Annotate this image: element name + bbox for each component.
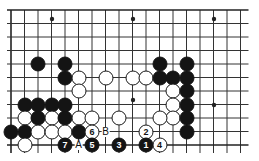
move-stone-white-4: 4 xyxy=(152,138,167,153)
stone-white xyxy=(112,111,127,126)
point-label-a: A xyxy=(74,140,83,150)
stone-white xyxy=(71,84,86,99)
stone-black xyxy=(179,124,194,139)
star-point xyxy=(50,17,54,21)
star-point xyxy=(131,98,135,102)
stone-move-number: 7 xyxy=(62,141,67,150)
star-point xyxy=(212,103,216,107)
stone-move-number: 1 xyxy=(143,141,148,150)
point-label-b: B xyxy=(101,127,110,137)
go-board-diagram: 6275314 AB xyxy=(0,0,259,161)
stone-move-number: 2 xyxy=(143,127,148,136)
stone-white xyxy=(152,111,167,126)
stone-black xyxy=(31,57,46,72)
move-stone-black-7: 7 xyxy=(58,138,73,153)
stone-move-number: 4 xyxy=(157,141,162,150)
stone-white xyxy=(17,138,32,153)
star-point xyxy=(212,17,216,21)
stone-move-number: 5 xyxy=(89,141,94,150)
stone-move-number: 3 xyxy=(116,141,121,150)
move-stone-black-5: 5 xyxy=(85,138,100,153)
star-point xyxy=(131,17,135,21)
stone-move-number: 6 xyxy=(89,127,94,136)
stone-white xyxy=(98,70,113,85)
move-stone-black-3: 3 xyxy=(112,138,127,153)
